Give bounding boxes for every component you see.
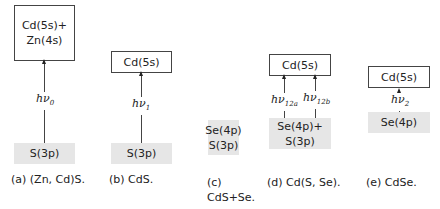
panel-d-lower-line-1: Se(4p)+ [277,119,323,134]
panel-d-lower-level: Se(4p)+ S(3p) [269,118,331,149]
panel-d-transition-label-a: hν12a [270,93,299,111]
panel-a-upper-line-2: Zn(4s) [27,33,63,48]
panel-e-lower-line-1: Se(4p) [381,115,417,130]
panel-a-caption: (a) (Zn, Cd)S. [11,172,85,187]
panel-a-upper-level: Cd(5s)+ Zn(4s) [14,5,75,61]
panel-b-lower-line-1: S(3p) [127,146,157,161]
panel-c-lower-line-2: S(3p) [209,138,239,153]
panel-c-caption-line-2: CdS+Se. [207,190,255,205]
panel-a-upper-line-1: Cd(5s)+ [22,18,67,33]
panel-e-upper-line-1: Cd(5s) [381,70,417,85]
panel-e-lower-level: Se(4p) [368,112,430,133]
arrowhead-icon [139,71,143,76]
arrowhead-icon [42,59,46,64]
panel-c-caption-line-1: (c) [207,175,222,190]
panel-a-transition-label: hν0 [35,92,55,110]
panel-e-caption: (e) CdSe. [366,175,417,190]
panel-d-upper-line-1: Cd(5s) [282,58,318,73]
panel-e-transition-label: hν2 [390,93,410,111]
panel-a-lower-line-1: S(3p) [30,146,60,161]
arrowhead-icon [282,74,286,79]
panel-d-lower-line-2: S(3p) [285,134,315,149]
panel-b-transition-label: hν1 [131,97,151,115]
panel-b-upper-line-1: Cd(5s) [124,55,160,70]
panel-b-caption: (b) CdS. [109,172,153,187]
panel-d-transition-label-b: hν12b [302,91,331,109]
panel-a-lower-level: S(3p) [14,143,75,164]
panel-d-upper-level: Cd(5s) [269,54,331,76]
panel-d-caption: (d) Cd(S, Se). [267,175,341,190]
panel-b-lower-level: S(3p) [111,143,172,164]
panel-b-upper-level: Cd(5s) [111,51,172,73]
panel-c-lower-line-1: Se(4p) [205,123,241,138]
panel-c-lower-level: Se(4p) S(3p) [208,120,239,155]
arrowhead-icon [313,74,317,79]
panel-e-upper-level: Cd(5s) [368,66,430,88]
